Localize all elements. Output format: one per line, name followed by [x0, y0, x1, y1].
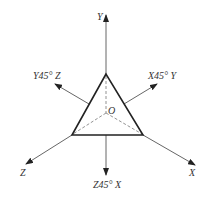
x45y-axis-label: X45° Y — [147, 70, 178, 81]
y45z-axis — [55, 84, 89, 104]
z-axis-label: Z — [20, 167, 26, 178]
axis-diagram: O Y X Z X45° Y Y45° Z Z45° X — [0, 0, 206, 205]
y-axis-label: Y — [97, 11, 104, 22]
x-axis — [143, 135, 195, 165]
origin-label: O — [108, 105, 115, 116]
z45x-axis-label: Z45° X — [93, 179, 122, 190]
x-axis-label: X — [188, 167, 196, 178]
z-axis — [26, 135, 72, 164]
x45y-axis — [124, 84, 157, 104]
y45z-axis-label: Y45° Z — [33, 70, 61, 81]
